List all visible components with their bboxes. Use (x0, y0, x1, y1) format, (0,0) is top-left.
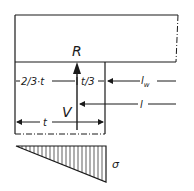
label-shear: V (62, 104, 73, 120)
label-lever: l (140, 99, 143, 110)
label-stress: σ (112, 158, 120, 171)
label-thickness: t (43, 117, 48, 128)
label-one-third: t/3 (81, 76, 95, 87)
resultant-arrow (73, 62, 81, 130)
label-two-thirds: 2/3·t (21, 76, 45, 87)
wall-section (15, 62, 105, 134)
label-resultant: R (72, 43, 82, 59)
stress-distribution (16, 146, 106, 182)
upper-block (15, 15, 178, 62)
structural-diagram: R 2/3·t t/3 lw l V t (0, 0, 194, 191)
label-wall-length: lw (141, 75, 150, 89)
